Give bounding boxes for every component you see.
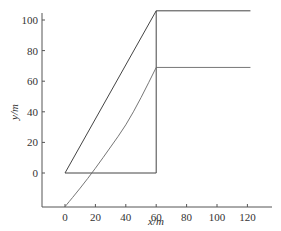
- series: [65, 11, 250, 207]
- y-tick-label: 40: [27, 106, 39, 118]
- chart: 020406080100020406080100120 x/m y/m: [0, 0, 281, 231]
- x-tick-label: 0: [62, 211, 68, 223]
- y-axis-label: y/m: [8, 104, 20, 121]
- outer-path-line: [65, 11, 250, 173]
- x-axis-label: x/m: [147, 215, 164, 227]
- y-tick-label: 100: [22, 14, 39, 26]
- x-tick-label: 20: [90, 211, 102, 223]
- x-tick-label: 100: [209, 211, 226, 223]
- x-tick-label: 80: [181, 211, 193, 223]
- y-tick-label: 80: [27, 45, 39, 57]
- x-tick-label: 120: [239, 211, 256, 223]
- labels: x/m y/m: [8, 104, 164, 227]
- y-tick-label: 0: [33, 167, 39, 179]
- x-tick-label: 40: [120, 211, 132, 223]
- axes: 020406080100020406080100120: [22, 13, 273, 223]
- inner-curve-line: [65, 67, 250, 206]
- y-tick-label: 20: [27, 136, 39, 148]
- y-tick-label: 60: [27, 75, 39, 87]
